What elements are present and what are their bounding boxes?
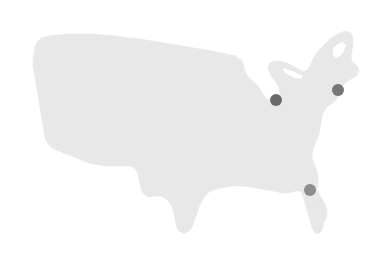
map-marker-boston[interactable] — [332, 84, 344, 96]
us-location-map-widget: Locations Chicago Boston Jacksonville Un… — [0, 0, 380, 259]
map-marker-jacksonville[interactable] — [304, 184, 316, 196]
map-marker-chicago[interactable] — [270, 94, 282, 106]
map-landmass-group — [33, 31, 359, 234]
map-canvas — [0, 0, 380, 259]
